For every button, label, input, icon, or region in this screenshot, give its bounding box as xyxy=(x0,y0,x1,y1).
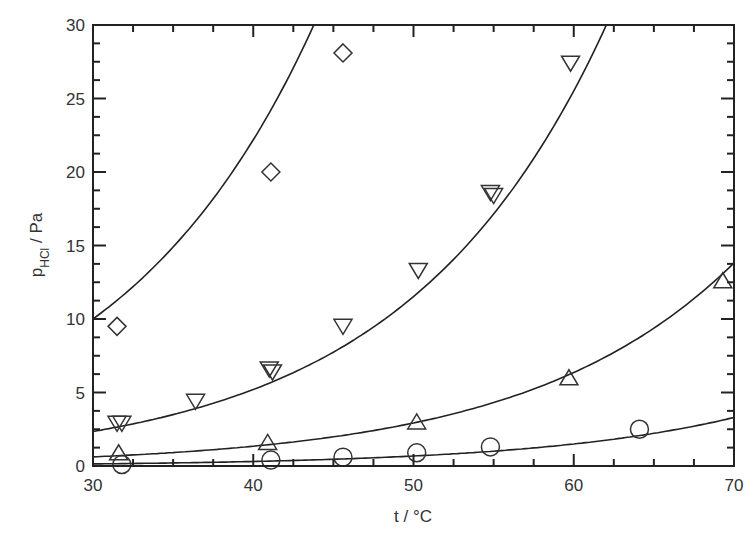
marker-circle xyxy=(334,448,352,466)
marker-triangle-down xyxy=(409,263,427,278)
fit-curve-triangle-up xyxy=(93,263,734,457)
marker-diamond xyxy=(108,317,126,335)
x-tick-labels: 3040506070 xyxy=(84,476,744,495)
y-tick-label: 15 xyxy=(66,237,85,256)
y-tick-label: 30 xyxy=(66,16,85,35)
x-tick-label: 30 xyxy=(84,476,103,495)
marker-circle xyxy=(408,444,426,462)
x-tick-label: 50 xyxy=(404,476,423,495)
y-tick-label: 10 xyxy=(66,310,85,329)
chart: 3040506070 051015202530 t / °C pHCl / Pa xyxy=(0,0,756,536)
marker-circle xyxy=(481,438,499,456)
y-tick-label: 20 xyxy=(66,163,85,182)
marker-triangle-down xyxy=(562,56,580,71)
marker-diamond xyxy=(334,44,352,62)
fit-curve-triangle-down xyxy=(93,0,734,432)
marker-triangle-down xyxy=(334,319,352,334)
data-markers xyxy=(108,44,732,474)
y-tick-label: 0 xyxy=(76,457,85,476)
y-tick-label: 5 xyxy=(76,384,85,403)
x-tick-label: 70 xyxy=(725,476,744,495)
y-tick-labels: 051015202530 xyxy=(66,16,85,476)
x-axis-title: t / °C xyxy=(394,507,432,526)
y-axis-title: pHCl / Pa xyxy=(27,212,52,277)
marker-diamond xyxy=(262,163,280,181)
x-tick-label: 40 xyxy=(244,476,263,495)
y-tick-label: 25 xyxy=(66,90,85,109)
x-tick-label: 60 xyxy=(564,476,583,495)
marker-circle xyxy=(113,456,131,474)
marker-triangle-up xyxy=(259,434,277,449)
marker-triangle-up xyxy=(110,445,128,460)
